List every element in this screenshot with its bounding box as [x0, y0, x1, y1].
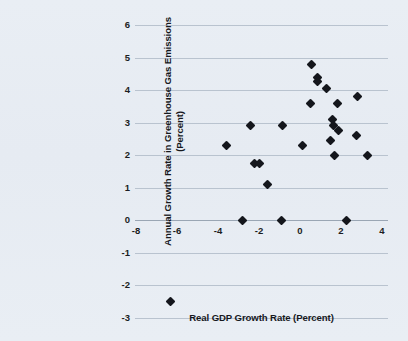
- data-point: [305, 98, 315, 108]
- data-point: [297, 140, 307, 150]
- x-axis-title: Real GDP Growth Rate (Percent): [135, 312, 388, 323]
- data-point: [306, 59, 316, 69]
- y-tick-label: 5: [104, 53, 130, 63]
- y-tick-label: 2: [104, 150, 130, 160]
- y-tick-label: 1: [104, 183, 130, 193]
- data-point: [221, 140, 231, 150]
- data-point: [326, 135, 336, 145]
- data-point: [334, 126, 344, 136]
- y-tick-label: 3: [104, 118, 130, 128]
- data-point: [341, 215, 351, 225]
- gridline-y--2: [135, 285, 388, 286]
- y-axis-title-wrapper: Annual Growth Rate in Greenhouse Gas Emi…: [86, 0, 87, 341]
- y-axis-title: Annual Growth Rate in Greenhouse Gas Emi…: [162, 17, 185, 247]
- data-point: [352, 92, 362, 102]
- x-tick-label: -4: [203, 226, 233, 236]
- y-tick-label: 0: [104, 215, 130, 225]
- y-tick-label: -2: [104, 280, 130, 290]
- x-tick-label: 4: [367, 226, 397, 236]
- data-point: [330, 150, 340, 160]
- data-point: [277, 215, 287, 225]
- y-tick-label: -3: [104, 313, 130, 323]
- data-point: [351, 131, 361, 141]
- x-tick-label: -2: [244, 226, 274, 236]
- data-point: [166, 296, 176, 306]
- data-point: [333, 98, 343, 108]
- y-axis-tick-labels: 6543210-1-2-3: [100, 0, 130, 341]
- data-point: [363, 150, 373, 160]
- x-tick-label: 2: [326, 226, 356, 236]
- scatter-plot-figure: 6543210-1-2-3 -8-6-4-2024 Annual Growth …: [0, 0, 408, 341]
- y-tick-label: 6: [104, 20, 130, 30]
- data-point: [238, 215, 248, 225]
- gridline-y--1: [135, 253, 388, 254]
- x-tick-label: -8: [121, 226, 151, 236]
- data-point: [322, 83, 332, 93]
- y-tick-label: -1: [104, 248, 130, 258]
- x-tick-label: 0: [285, 226, 315, 236]
- y-tick-label: 4: [104, 85, 130, 95]
